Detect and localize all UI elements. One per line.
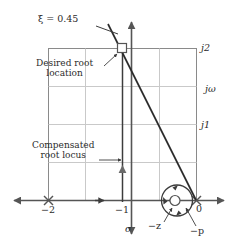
zero-marker (170, 196, 180, 206)
desired-root-annotation: Desired root location (36, 58, 93, 78)
tick-label-minus2: −2 (41, 205, 55, 216)
zero-label: −z (148, 221, 161, 232)
zeta-leader (96, 26, 118, 34)
compensated-line-2: root locus (32, 150, 94, 160)
desired-root-square (118, 44, 127, 53)
desired-root-leader (104, 54, 117, 66)
compensated-line-1: Compensated (32, 140, 94, 150)
damping-ratio-label: ξ = 0.45 (38, 14, 78, 25)
root-locus-figure: ξ = 0.45 Desired root location Compensat… (0, 0, 236, 244)
tick-label-j1: j1 (201, 120, 210, 131)
tick-label-minus1: −1 (115, 205, 129, 216)
desired-root-marker (118, 44, 127, 53)
compensated-locus-annotation: Compensated root locus (32, 140, 94, 160)
pole-leader (186, 208, 196, 226)
desired-root-line-2: location (36, 68, 93, 78)
compensated-root-locus-branch (119, 44, 127, 202)
desired-root-line-1: Desired root (36, 58, 93, 68)
tick-label-j2: j2 (201, 43, 210, 54)
locus-branch-arrow (119, 165, 127, 173)
pole-label: −p (190, 226, 204, 237)
real-axis-label: σ (125, 224, 132, 235)
tick-label-zero: 0 (196, 204, 202, 215)
imaginary-axis-label: jω (205, 84, 216, 95)
annotation-leaders (96, 26, 196, 226)
zero-circle (170, 196, 180, 206)
